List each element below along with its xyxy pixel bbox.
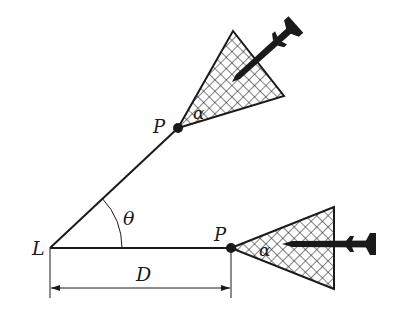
theta-arc [103, 199, 123, 248]
point-P-upper [173, 123, 183, 133]
label-alpha-upper: α [193, 103, 205, 123]
label-P-upper: P [152, 116, 166, 137]
point-P-lower [226, 243, 236, 253]
lower-cone-sector [231, 207, 334, 289]
label-theta: θ [123, 207, 135, 229]
label-D: D [135, 263, 151, 285]
label-alpha-lower: α [259, 240, 271, 260]
label-P-lower: P [213, 224, 227, 245]
diagram-canvas: L P P θ α α D [0, 0, 408, 326]
label-L: L [31, 237, 45, 259]
rotated-line-L-to-P [50, 128, 178, 248]
